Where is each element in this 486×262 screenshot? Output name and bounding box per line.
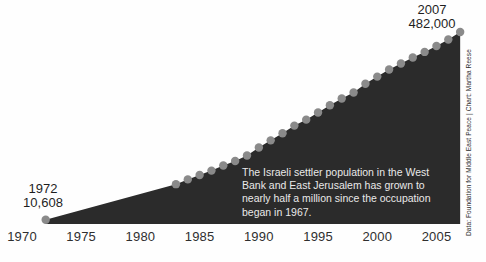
chart-credit-container: Data: Foundation for Middle East Peace |… <box>472 96 486 236</box>
annotation-end-year: 2007 <box>386 3 478 17</box>
data-point <box>184 175 192 183</box>
data-point <box>349 88 357 96</box>
data-point <box>41 216 49 224</box>
data-point <box>373 72 381 80</box>
data-point <box>385 65 393 73</box>
data-point <box>444 35 452 43</box>
data-point <box>338 94 346 102</box>
data-point <box>207 166 215 174</box>
data-point <box>266 136 274 144</box>
data-point <box>409 53 417 61</box>
data-point <box>326 101 334 109</box>
data-point <box>361 80 369 88</box>
data-point <box>278 129 286 137</box>
annotation-start-1972: 1972 10,608 <box>10 182 76 209</box>
data-point <box>314 108 322 116</box>
chart-caption: The Israeli settler population in the We… <box>242 166 454 219</box>
annotation-end-2007: 2007 482,000 <box>386 3 478 30</box>
chart-credit: Data: Foundation for Middle East Peace |… <box>465 49 472 236</box>
annotation-end-value: 482,000 <box>386 17 478 31</box>
data-point <box>195 171 203 179</box>
data-point <box>420 48 428 56</box>
settler-population-chart: 19701975198019851990199520002005 1972 10… <box>0 0 486 262</box>
data-point <box>432 42 440 50</box>
data-point <box>255 143 263 151</box>
chart-plot-area <box>0 0 486 262</box>
data-point <box>243 151 251 159</box>
data-point <box>219 161 227 169</box>
annotation-start-year: 1972 <box>10 182 76 196</box>
data-point <box>172 180 180 188</box>
data-point <box>397 59 405 67</box>
annotation-start-value: 10,608 <box>10 196 76 210</box>
data-point <box>290 121 298 129</box>
data-point <box>302 115 310 123</box>
data-point <box>231 157 239 165</box>
